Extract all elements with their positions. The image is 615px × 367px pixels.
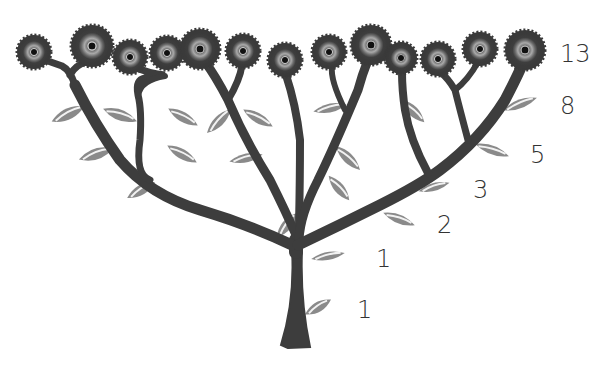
trunk (281, 250, 310, 348)
leaf (382, 208, 417, 229)
flower (312, 35, 346, 69)
tree-illustration (0, 0, 615, 367)
fibonacci-tree-diagram: 13 8 5 3 2 1 1 (0, 0, 615, 367)
label-level-5: 5 (530, 143, 545, 167)
flower (268, 43, 302, 77)
flower (505, 30, 545, 70)
leaf (241, 105, 275, 131)
leaf (311, 249, 346, 263)
flower (180, 29, 220, 69)
label-level-1-upper: 1 (376, 247, 391, 271)
leaf (166, 104, 200, 130)
flower (113, 40, 147, 74)
flower (385, 42, 417, 74)
label-level-1-lower: 1 (357, 298, 372, 322)
label-level-8: 8 (560, 94, 575, 118)
branches (45, 60, 522, 348)
leaf (165, 141, 199, 167)
label-level-13: 13 (560, 42, 591, 66)
flower (421, 42, 455, 76)
flower (226, 34, 260, 68)
label-level-2: 2 (437, 213, 452, 237)
leaf (474, 140, 511, 161)
leaf (325, 173, 353, 204)
flower (17, 35, 51, 69)
flower (463, 32, 497, 66)
leaf (101, 104, 139, 127)
label-level-3: 3 (473, 178, 488, 202)
leaf (303, 295, 334, 319)
flowers (17, 25, 545, 77)
flower (71, 25, 113, 67)
flower (150, 36, 184, 70)
